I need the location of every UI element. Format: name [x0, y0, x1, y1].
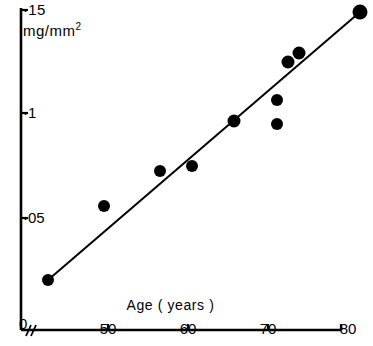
data-point — [42, 274, 54, 286]
plot-area — [0, 0, 373, 346]
data-point — [154, 165, 166, 177]
x-tick-label-60: 60 — [173, 320, 203, 337]
x-axis-title: Age ( years ) — [0, 298, 341, 312]
data-point — [98, 200, 110, 212]
y-tick-label-low: ·05 — [23, 210, 45, 225]
data-point — [293, 47, 306, 60]
regression-line — [48, 12, 360, 280]
data-point — [271, 118, 283, 130]
x-tick-label-50: 50 — [93, 320, 123, 337]
y-axis-unit-exponent: 2 — [76, 21, 82, 32]
data-point — [271, 94, 283, 106]
data-point — [228, 115, 241, 128]
data-point — [186, 160, 198, 172]
y-tick-label-mid: ·1 — [23, 105, 36, 120]
y-axis-unit-text: mg/mm — [23, 22, 76, 39]
data-point — [282, 56, 295, 69]
x-tick-label-70: 70 — [253, 320, 283, 337]
origin-label: 0 — [19, 316, 27, 331]
y-axis-unit-label: mg/mm2 — [23, 22, 82, 38]
x-tick-label-80: 80 — [333, 320, 363, 337]
figure-root: ·15 mg/mm2 ·1 ·05 0 Age ( years ) 50 60 … — [0, 0, 373, 346]
chart-canvas — [0, 0, 373, 346]
data-point — [353, 5, 368, 20]
y-tick-label-top: ·15 — [23, 2, 46, 17]
